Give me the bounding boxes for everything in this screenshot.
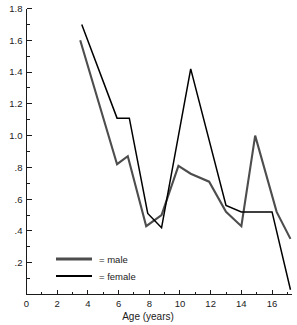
y-tick-label: 1.8 — [9, 3, 22, 14]
x-tick-label: 8 — [147, 298, 152, 309]
legend-label-male: = male — [99, 254, 128, 265]
y-tick-label: .6 — [15, 194, 23, 205]
y-tick-label: 1.0 — [9, 130, 22, 141]
x-tick-label: 14 — [236, 298, 247, 309]
x-tick-label: 12 — [205, 298, 216, 309]
x-tick-label: 10 — [175, 298, 186, 309]
x-tick-label: 2 — [55, 298, 60, 309]
chart-container: .2.4.6.81.01.21.41.61.8 0246810121416 = … — [0, 0, 297, 325]
x-tick-label: 0 — [24, 298, 29, 309]
y-tick-label: 1.4 — [9, 66, 22, 77]
y-tick-label: .8 — [15, 162, 23, 173]
y-tick-label: .2 — [15, 257, 23, 268]
x-tick-label: 6 — [116, 298, 121, 309]
legend-label-female: = female — [99, 271, 136, 282]
y-tick-label: .4 — [15, 225, 23, 236]
x-tick-label: 4 — [85, 298, 90, 309]
y-tick-label: 1.2 — [9, 98, 22, 109]
chart-background — [0, 0, 297, 325]
y-tick-label: 1.6 — [9, 35, 22, 46]
x-tick-label: 16 — [267, 298, 278, 309]
line-chart: .2.4.6.81.01.21.41.61.8 0246810121416 = … — [0, 0, 297, 325]
x-axis-title: Age (years) — [122, 311, 174, 322]
